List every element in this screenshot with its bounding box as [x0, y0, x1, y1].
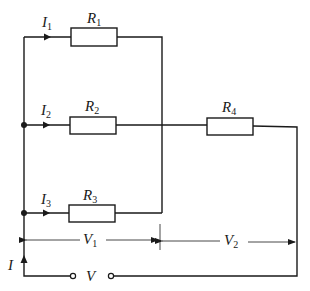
label-i1-sub: 1 [47, 21, 52, 32]
label-i2: I2 [41, 103, 51, 120]
label-i2-sub: 2 [46, 109, 51, 120]
label-r2-main: R [85, 98, 94, 114]
junction-dot [21, 210, 27, 216]
label-r2-sub: 2 [94, 105, 99, 116]
resistor-r2 [70, 117, 116, 134]
resistor-r3 [69, 205, 115, 222]
label-r4-main: R [222, 99, 231, 115]
current-arrow-i1 [44, 34, 51, 41]
label-i3-sub: 3 [46, 198, 51, 209]
label-v2-sub: 2 [233, 239, 238, 250]
label-r4-sub: 4 [231, 106, 236, 117]
label-r2: R2 [85, 99, 99, 116]
resistor-r1 [71, 28, 117, 46]
terminal-right [108, 273, 113, 278]
label-i-total: I [8, 258, 13, 273]
label-v1: V1 [80, 232, 100, 249]
resistor-r4 [207, 118, 253, 135]
circuit-diagram: R1 R2 R3 R4 I1 I2 I3 I V1 V2 V [0, 0, 310, 291]
branch-r4-wire [112, 126, 297, 276]
label-r1-main: R [87, 10, 96, 26]
junction-dot [21, 122, 27, 128]
label-r3-main: R [83, 187, 92, 203]
terminal-left [70, 273, 75, 278]
label-r1-sub: 1 [96, 17, 101, 28]
label-r1: R1 [87, 11, 101, 28]
label-v2-main: V [224, 232, 233, 248]
label-r3: R3 [83, 188, 97, 205]
label-i1: I1 [42, 15, 52, 32]
current-arrow-i2 [43, 122, 50, 129]
label-i3: I3 [41, 192, 51, 209]
current-arrow-i3 [43, 210, 50, 217]
label-r3-sub: 3 [92, 194, 97, 205]
label-v-main: V [86, 268, 95, 284]
label-v2: V2 [221, 233, 241, 250]
label-v1-main: V [83, 231, 92, 247]
current-arrow-i [21, 255, 28, 263]
label-v1-sub: 1 [92, 238, 97, 249]
circuit-wiring [0, 0, 310, 291]
label-r4: R4 [222, 100, 236, 117]
label-i-main: I [8, 257, 13, 273]
label-v-source: V [86, 269, 95, 284]
